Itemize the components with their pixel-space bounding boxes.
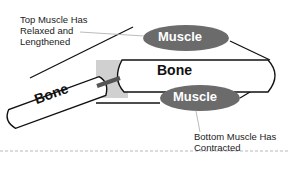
top-muscle-label: Muscle (158, 29, 202, 44)
caption-line: Lengthened (20, 36, 88, 47)
top-muscle-caption: Top Muscle Has Relaxed and Lengthened (20, 14, 88, 47)
top-pointer (80, 32, 144, 36)
caption-line: Bottom Muscle Has (194, 131, 276, 142)
caption-line: Top Muscle Has (20, 14, 88, 25)
bottom-muscle-caption: Bottom Muscle Has Contracted (194, 131, 276, 153)
bottom-muscle-label: Muscle (173, 89, 217, 104)
top-tendon-right (230, 41, 270, 60)
upper-bone-label: Bone (157, 62, 192, 78)
caption-line: Contracted (194, 142, 276, 153)
bottom-pointer (196, 111, 200, 132)
caption-line: Relaxed and (20, 25, 88, 36)
